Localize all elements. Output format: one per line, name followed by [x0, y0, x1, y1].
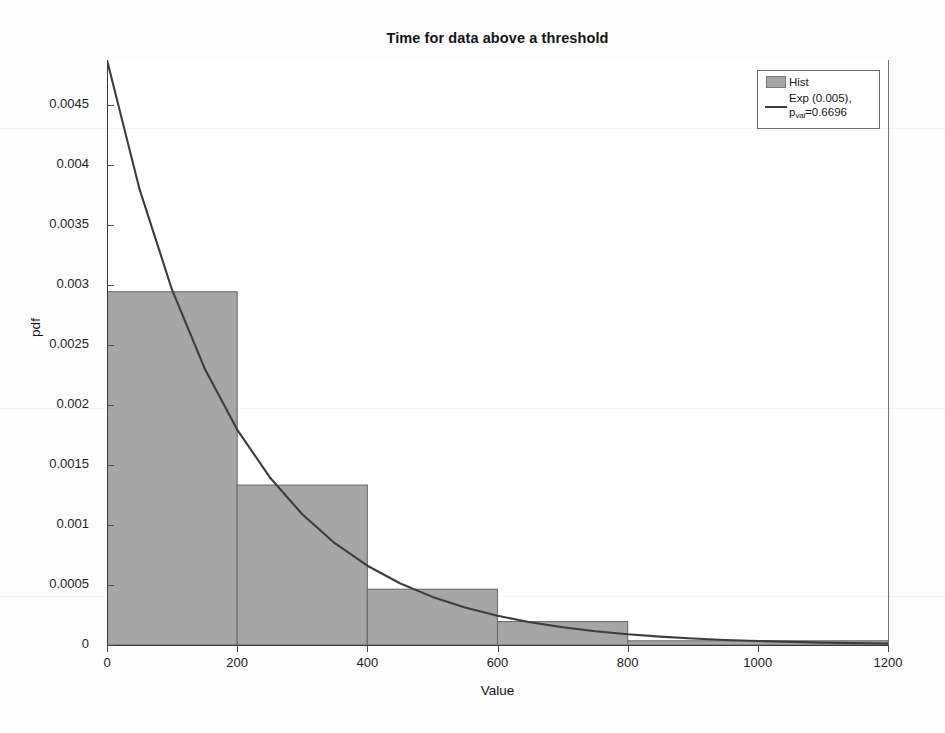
x-tick-label-holder: 600: [458, 653, 538, 671]
x-tick-label-holder: 0: [67, 653, 147, 671]
x-tick-label-holder: 1000: [718, 653, 798, 671]
y-tick-label: 0.0005: [49, 576, 89, 591]
x-tick-mark: [237, 645, 238, 652]
axis-left-spine: [107, 60, 108, 645]
axis-right-spine: [888, 60, 889, 645]
histogram-bar: [237, 485, 367, 645]
x-tick-label-holder: 400: [327, 653, 407, 671]
y-tick-mark: [107, 525, 114, 526]
y-tick-mark: [107, 345, 114, 346]
y-tick-label: 0.0025: [49, 336, 89, 351]
x-tick-label: 200: [226, 655, 248, 670]
chart-title: Time for data above a threshold: [107, 30, 888, 46]
x-axis-label: Value: [107, 683, 888, 698]
y-tick-mark: [107, 405, 114, 406]
legend-label-exp-fit: Exp (0.005), pval=0.6696: [789, 91, 852, 123]
y-tick-mark: [107, 285, 114, 286]
x-tick-mark: [758, 645, 759, 652]
scan-artifact: [0, 596, 945, 597]
y-tick-label: 0.004: [56, 156, 89, 171]
scan-artifact: [0, 408, 945, 409]
figure-canvas: Time for data above a threshold 00.00050…: [0, 0, 945, 733]
legend-item-hist: Hist: [763, 75, 874, 89]
y-axis-label: pdf: [28, 288, 43, 368]
legend-exp-line1: Exp (0.005),: [789, 92, 852, 104]
histogram-bar: [107, 292, 237, 645]
x-tick-mark: [888, 645, 889, 652]
x-tick-mark: [628, 645, 629, 652]
legend-patch-icon: [763, 76, 789, 88]
legend-item-exp-fit: Exp (0.005), pval=0.6696: [763, 91, 874, 123]
y-tick-label: 0: [82, 636, 89, 651]
y-tick-label: 0.003: [56, 276, 89, 291]
legend-pval-value: =0.6696: [805, 106, 847, 118]
x-tick-label-holder: 800: [588, 653, 668, 671]
y-tick-label: 0.001: [56, 516, 89, 531]
histogram-bars: [107, 292, 888, 645]
plot-svg: [107, 60, 888, 645]
legend-label-hist: Hist: [789, 75, 809, 89]
x-tick-label: 800: [617, 655, 639, 670]
y-tick-mark: [107, 225, 114, 226]
x-tick-label: 600: [487, 655, 509, 670]
x-tick-label-holder: 200: [197, 653, 277, 671]
scan-artifact: [0, 128, 945, 129]
x-tick-mark: [498, 645, 499, 652]
y-tick-mark: [107, 585, 114, 586]
x-tick-label-holder: 1200: [848, 653, 928, 671]
x-tick-label: 1000: [743, 655, 772, 670]
y-tick-mark: [107, 645, 114, 646]
y-tick-label: 0.0045: [49, 96, 89, 111]
x-tick-mark: [367, 645, 368, 652]
legend-box: Hist Exp (0.005), pval=0.6696: [757, 70, 880, 129]
y-tick-label: 0.0015: [49, 456, 89, 471]
plot-area: [107, 60, 888, 645]
legend-pval-subscript: val: [795, 111, 805, 120]
y-tick-mark: [107, 465, 114, 466]
x-tick-label: 0: [103, 655, 110, 670]
x-tick-label: 400: [356, 655, 378, 670]
x-tick-label: 1200: [874, 655, 903, 670]
y-tick-mark: [107, 105, 114, 106]
x-tick-mark: [107, 645, 108, 652]
y-tick-mark: [107, 165, 114, 166]
y-tick-label: 0.0035: [49, 216, 89, 231]
legend-line-icon: [763, 106, 789, 108]
